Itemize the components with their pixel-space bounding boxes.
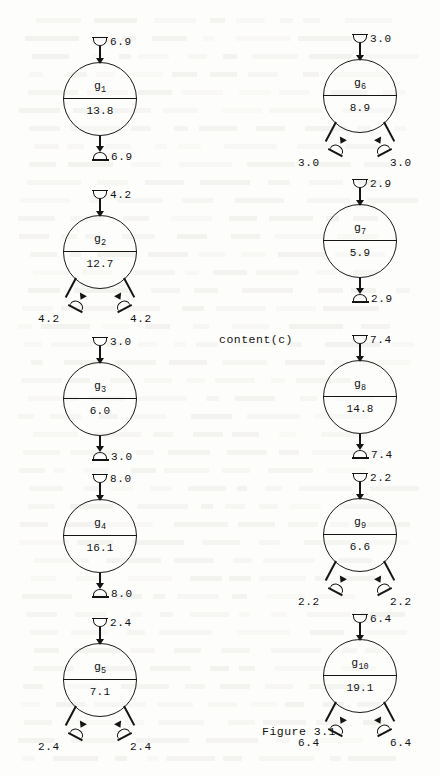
figure-page: 6.9g113.86.94.2g212.74.24.23.0g36.03.08.… <box>0 0 440 776</box>
node-label-subscript: 2 <box>101 238 106 248</box>
outflow-value-left: 6.4 <box>298 738 320 749</box>
inlet-funnel-bowl <box>93 191 107 199</box>
node-label-subscript: 7 <box>361 227 366 237</box>
outflow-value: 3.0 <box>111 452 133 463</box>
node-circle <box>323 360 397 434</box>
inlet-funnel-icon <box>92 37 108 46</box>
inlet-funnel-icon <box>92 618 108 627</box>
inflow-value: 7.4 <box>370 335 392 346</box>
node-label-subscript: 10 <box>358 662 368 672</box>
outlet-funnel-icon <box>92 152 109 161</box>
node-value: 16.1 <box>63 543 137 554</box>
outflow-value-right: 3.0 <box>390 158 412 169</box>
node-label: g9 <box>323 516 397 530</box>
node-label-base: g <box>94 379 101 392</box>
node-value: 19.1 <box>323 683 397 694</box>
inflow-value: 3.0 <box>370 34 392 45</box>
outflow-value-right: 2.2 <box>390 597 412 608</box>
node-value: 8.9 <box>323 103 397 114</box>
node-label-subscript: 5 <box>101 666 106 676</box>
inflow-value: 6.4 <box>370 614 392 625</box>
outlet-leg-l <box>325 702 337 722</box>
outlet-funnel-base <box>92 596 109 598</box>
node-label: g3 <box>63 380 137 394</box>
inflow-value: 3.0 <box>110 337 132 348</box>
inlet-funnel-icon <box>352 335 368 344</box>
outlet-funnel-icon <box>352 294 369 303</box>
node-divider <box>63 398 137 399</box>
node-label-base: g <box>94 660 101 673</box>
outflow-value: 8.0 <box>111 589 133 600</box>
node-value: 12.7 <box>63 259 137 270</box>
node-circle <box>63 499 137 573</box>
outlet-leg-l <box>65 278 77 298</box>
inlet-funnel-bowl <box>93 619 107 627</box>
node-label: g4 <box>63 517 137 531</box>
node-label: g1 <box>63 80 137 94</box>
outflow-value-right: 6.4 <box>390 738 412 749</box>
figure-caption: Figure 3.1 <box>262 726 336 738</box>
inlet-funnel-icon <box>92 337 108 346</box>
inflow-value: 4.2 <box>110 190 132 201</box>
outlet-leg-r <box>123 278 135 298</box>
outflow-value-left: 2.2 <box>298 597 320 608</box>
inlet-funnel-icon <box>92 190 108 199</box>
node-divider <box>323 534 397 535</box>
node-label: g8 <box>323 378 397 392</box>
node-label-base: g <box>94 516 101 529</box>
outlet-leg-r <box>123 706 135 726</box>
content-label: content(c) <box>219 334 293 346</box>
outlet-funnel-icon <box>92 452 109 461</box>
node-label-subscript: 9 <box>361 521 366 531</box>
outlet-funnel-base <box>352 457 369 459</box>
inlet-funnel-bowl <box>353 35 367 43</box>
inflow-value: 2.4 <box>110 618 132 629</box>
outflow-value: 7.4 <box>371 450 393 461</box>
node-label-base: g <box>354 221 361 234</box>
outlet-leg-l <box>325 561 337 581</box>
inlet-funnel-bowl <box>353 474 367 482</box>
node-value: 14.8 <box>323 404 397 415</box>
node-label: g5 <box>63 661 137 675</box>
node-divider <box>323 675 397 676</box>
node-label-base: g <box>354 76 361 89</box>
inlet-funnel-bowl <box>353 615 367 623</box>
outlet-leg-arrow-icon-l <box>337 575 347 584</box>
outflow-value-left: 4.2 <box>38 314 60 325</box>
outlet-funnel-bowl <box>93 452 107 459</box>
outlet-leg-arrow-icon-l <box>77 720 87 729</box>
inlet-funnel-bowl <box>93 475 107 483</box>
node-label-base: g <box>354 515 361 528</box>
node-value: 5.9 <box>323 248 397 259</box>
node-divider <box>63 535 137 536</box>
node-label-subscript: 4 <box>101 522 106 532</box>
inflow-value: 6.9 <box>110 37 132 48</box>
node-circle <box>63 62 137 136</box>
node-label: g2 <box>63 233 137 247</box>
outflow-value-left: 2.4 <box>38 742 60 753</box>
inlet-funnel-icon <box>352 34 368 43</box>
inlet-funnel-bowl <box>353 336 367 344</box>
outlet-funnel-icon <box>352 450 369 459</box>
outlet-leg-r <box>383 702 395 722</box>
node-circle <box>63 362 137 436</box>
node-label: g7 <box>323 222 397 236</box>
node-divider <box>323 240 397 241</box>
node-label: g6 <box>323 77 397 91</box>
outlet-funnel-base <box>92 159 109 161</box>
node-label-base: g <box>354 377 361 390</box>
outlet-leg-arrow-icon-l <box>337 716 347 725</box>
outflow-value-left: 3.0 <box>298 158 320 169</box>
inlet-funnel-icon <box>352 473 368 482</box>
outlet-funnel-icon <box>92 589 109 598</box>
outlet-leg-l <box>65 706 77 726</box>
inlet-funnel-bowl <box>93 38 107 46</box>
node-value: 6.0 <box>63 406 137 417</box>
outlet-leg-l <box>325 122 337 142</box>
inflow-value: 2.2 <box>370 473 392 484</box>
node-label-subscript: 6 <box>361 82 366 92</box>
outflow-value: 6.9 <box>111 152 133 163</box>
node-value: 13.8 <box>63 106 137 117</box>
outlet-funnel-bowl <box>93 152 107 159</box>
outflow-value: 2.9 <box>371 294 393 305</box>
